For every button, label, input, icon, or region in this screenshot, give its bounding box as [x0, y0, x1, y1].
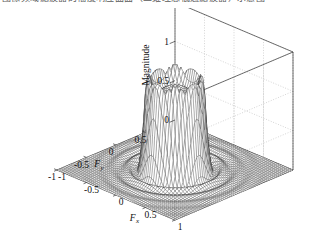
z-tick-label: 1 — [164, 37, 169, 47]
y-tick-label: 0.5 — [135, 135, 147, 145]
x-tick-label: -0.5 — [84, 185, 99, 195]
z-tick-label: 0.5 — [157, 76, 169, 86]
z-tick-label: 0 — [164, 115, 169, 125]
z-axis-title: Magnitude — [141, 44, 151, 85]
svg-text:x: x — [135, 217, 140, 225]
y-tick-label: -0.5 — [74, 160, 89, 170]
x-tick-label: -1 — [58, 172, 66, 182]
x-axis-title: Fx — [129, 213, 140, 226]
cutoff-caption-strip: 图像频域滤波器的幅度响应曲面（二维理想低通滤波器）示意图 — [0, 0, 327, 8]
y-tick-label: 0 — [109, 147, 114, 157]
svg-text:F: F — [93, 159, 100, 169]
cutoff-caption-text: 图像频域滤波器的幅度响应曲面（二维理想低通滤波器）示意图 — [2, 0, 265, 4]
surface-plot-svg: 00.511.5-1-0.500.51-1-0.500.5MagnitudeFx… — [0, 8, 327, 247]
svg-text:F: F — [129, 213, 136, 223]
y-tick-label: -1 — [48, 172, 56, 182]
x-tick-label: 0.5 — [145, 210, 157, 220]
figure-root: 图像频域滤波器的幅度响应曲面（二维理想低通滤波器）示意图 00.511.5-1-… — [0, 0, 327, 247]
x-tick-label: 1 — [178, 222, 183, 232]
x-tick-label: 0 — [119, 197, 124, 207]
surface-plot-figure: 00.511.5-1-0.500.51-1-0.500.5MagnitudeFx… — [0, 8, 327, 247]
